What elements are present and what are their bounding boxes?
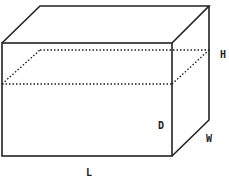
label-depth: D (158, 120, 164, 131)
right-face-edges (172, 6, 209, 156)
front-face (2, 43, 172, 156)
box-diagram: H D W L (0, 0, 229, 177)
water-level-right (172, 50, 209, 84)
box-edges (2, 6, 209, 156)
label-length: L (86, 167, 92, 177)
water-level-plane (2, 50, 209, 84)
water-level-left (2, 50, 40, 84)
label-width: W (206, 133, 213, 144)
top-face (2, 6, 209, 43)
label-height: H (220, 49, 226, 60)
